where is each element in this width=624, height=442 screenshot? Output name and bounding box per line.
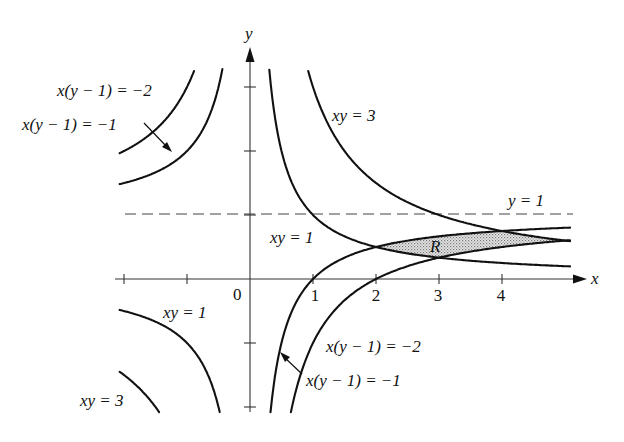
region-label-r: R [429,237,441,256]
label-ul-xym1: x(y − 1) = −1 [21,115,117,134]
label-q3-xy1: xy = 1 [162,303,207,322]
y-axis-arrow-icon [246,47,255,62]
curve-xy-1-q3 [120,310,220,412]
label-q3-xy3: xy = 3 [79,391,124,410]
x-tick-label-1: 1 [311,286,320,305]
label-lr-xym2: x(y − 1) = −2 [325,337,421,356]
label-q1-xy1: xy = 1 [269,228,314,247]
label-ul-xym2: x(y − 1) = −2 [56,81,152,100]
hyperbola-region-diagram: y x 0 1 2 3 4 y = 1 xy = 3 xy = 1 xy = 1… [0,0,624,442]
x-axis-arrow-icon [573,275,587,284]
x-tick-label-2: 2 [372,286,381,305]
x-tick-label-4: 4 [497,286,506,305]
label-asymptote: y = 1 [506,191,544,210]
x-tick-label-3: 3 [434,286,443,305]
label-q1-xy3: xy = 3 [331,106,376,125]
y-axis-label: y [243,24,253,43]
label-lr-xym1: x(y − 1) = −1 [305,371,401,390]
curve-xy-3-q3 [120,372,160,412]
x-axis-label: x [590,269,599,288]
curve-xy-3-q1 [308,71,570,241]
origin-label: 0 [233,285,242,304]
